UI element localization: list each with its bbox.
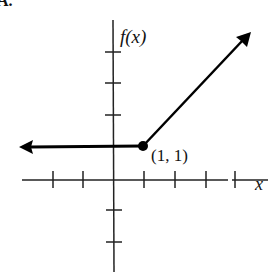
point-label: (1, 1) — [151, 146, 188, 166]
y-axis-label: f(x) — [120, 26, 146, 48]
x-axis-label: x — [255, 174, 263, 195]
right-ray — [143, 40, 243, 146]
closed-point-marker — [138, 141, 148, 151]
y-axis-label-text: f(x) — [120, 26, 146, 47]
left-ray — [30, 146, 143, 147]
left-arrowhead-icon — [19, 140, 33, 154]
